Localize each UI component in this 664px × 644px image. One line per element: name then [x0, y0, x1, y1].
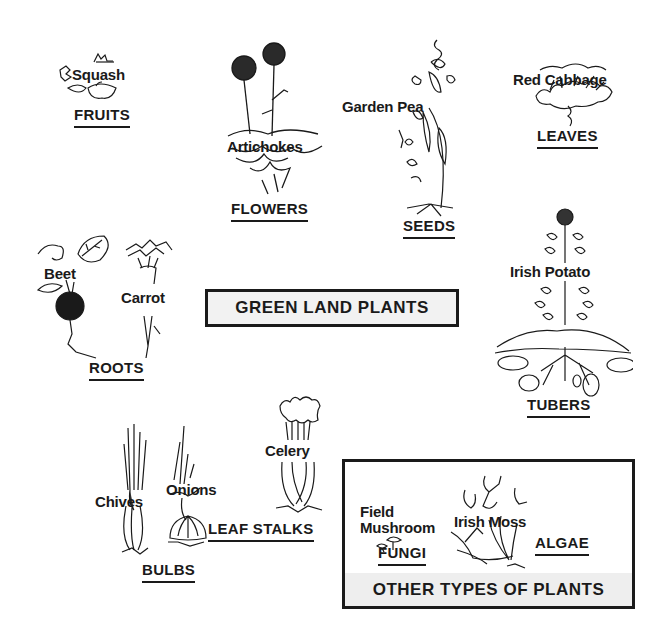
label-garden-pea: Garden Pea — [342, 99, 423, 115]
label-celery: Celery — [265, 443, 310, 459]
garden-pea-illustration — [393, 38, 468, 218]
chives-illustration — [118, 424, 154, 559]
label-irish-moss: Irish Moss — [454, 514, 526, 530]
category-roots: ROOTS — [89, 360, 144, 381]
other-types-of-plants-box: Field Mushroom FUNGI Irish Moss ALGAE OT… — [342, 459, 635, 609]
label-beet: Beet — [44, 266, 76, 282]
other-types-title-bar: OTHER TYPES OF PLANTS — [345, 573, 632, 606]
label-field-mushroom-line2: Mushroom — [360, 520, 435, 536]
label-onions: Onions — [166, 482, 216, 498]
artichoke-illustration — [222, 40, 337, 200]
category-fungi: FUNGI — [378, 545, 426, 566]
beet-illustration — [32, 232, 112, 362]
category-leaves: LEAVES — [537, 128, 598, 149]
label-artichokes: Artichokes — [227, 139, 303, 155]
category-flowers: FLOWERS — [231, 201, 308, 222]
green-land-plants-box: GREEN LAND PLANTS — [205, 289, 459, 327]
other-types-title: OTHER TYPES OF PLANTS — [373, 580, 605, 600]
label-squash: Squash — [72, 67, 125, 83]
category-seeds: SEEDS — [403, 218, 455, 239]
category-bulbs: BULBS — [142, 562, 195, 583]
label-field-mushroom-line1: Field — [360, 504, 394, 520]
label-chives: Chives — [95, 494, 143, 510]
category-tubers: TUBERS — [527, 397, 590, 418]
category-algae: ALGAE — [535, 535, 589, 556]
category-fruits: FRUITS — [74, 107, 130, 128]
green-land-plants-title: GREEN LAND PLANTS — [235, 298, 429, 318]
category-leaf-stalks: LEAF STALKS — [208, 521, 314, 542]
irish-potato-illustration — [493, 205, 633, 400]
label-irish-potato: Irish Potato — [510, 264, 590, 280]
label-carrot: Carrot — [121, 290, 165, 306]
label-red-cabbage: Red Cabbage — [513, 72, 607, 88]
